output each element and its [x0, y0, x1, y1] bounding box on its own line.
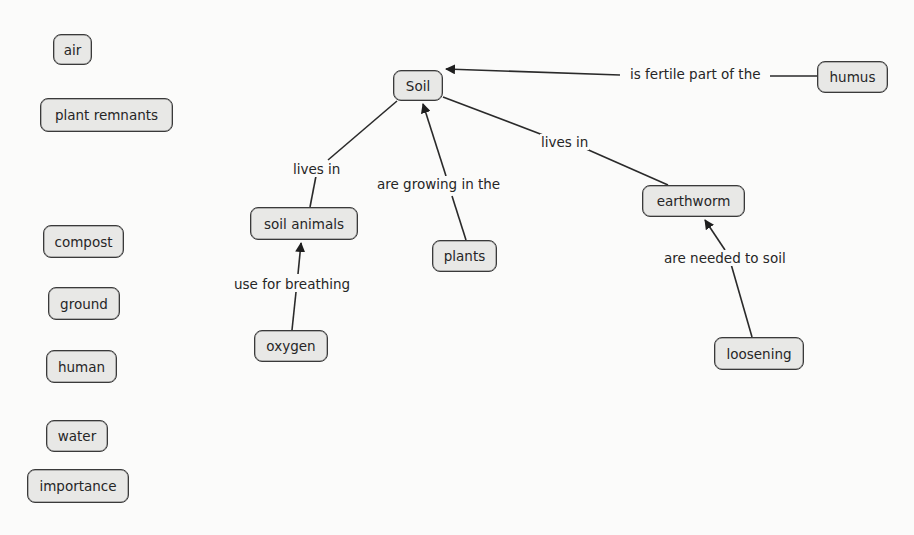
link-label-is-fertile-part-of-the: is fertile part of the: [629, 66, 762, 82]
link-line-soil-earthworm-upper: [443, 97, 543, 135]
link-line-soil-soil-animals-upper: [328, 101, 397, 160]
link-line-loosening-label: [731, 264, 752, 337]
node-human[interactable]: human: [46, 350, 117, 383]
node-soil-animals[interactable]: soil animals: [250, 207, 358, 240]
link-line-soil-earthworm-lower: [584, 148, 668, 185]
node-ground[interactable]: ground: [48, 287, 120, 320]
node-compost[interactable]: compost: [43, 225, 124, 258]
node-humus[interactable]: humus: [817, 61, 888, 93]
concept-map-canvas: is fertile part of the lives in are grow…: [0, 0, 914, 535]
node-soil[interactable]: Soil: [393, 70, 443, 101]
node-air[interactable]: air: [53, 34, 92, 65]
link-line-label-soil: [446, 69, 620, 75]
link-line-label-earthworm: [705, 220, 725, 250]
node-water[interactable]: water: [46, 420, 108, 452]
node-loosening[interactable]: loosening: [714, 337, 804, 370]
link-label-use-for-breathing: use for breathing: [233, 276, 351, 292]
link-label-lives-in-soil-animals: lives in: [292, 161, 341, 177]
link-line-plants-label: [452, 196, 466, 240]
link-label-are-growing-in-the: are growing in the: [376, 176, 501, 192]
link-label-are-needed-to-soil: are needed to soil: [663, 250, 787, 266]
link-line-oxygen-label: [292, 292, 296, 330]
link-line-soil-soil-animals-lower: [310, 176, 316, 207]
link-line-label-soil-animals: [298, 243, 301, 274]
node-plant-remnants[interactable]: plant remnants: [40, 98, 173, 132]
node-oxygen[interactable]: oxygen: [254, 330, 328, 362]
link-label-lives-in-earthworm: lives in: [540, 134, 589, 150]
node-plants[interactable]: plants: [432, 240, 497, 272]
link-line-label-soil-plants: [423, 104, 446, 176]
node-importance[interactable]: importance: [27, 469, 129, 503]
node-earthworm[interactable]: earthworm: [642, 185, 745, 217]
